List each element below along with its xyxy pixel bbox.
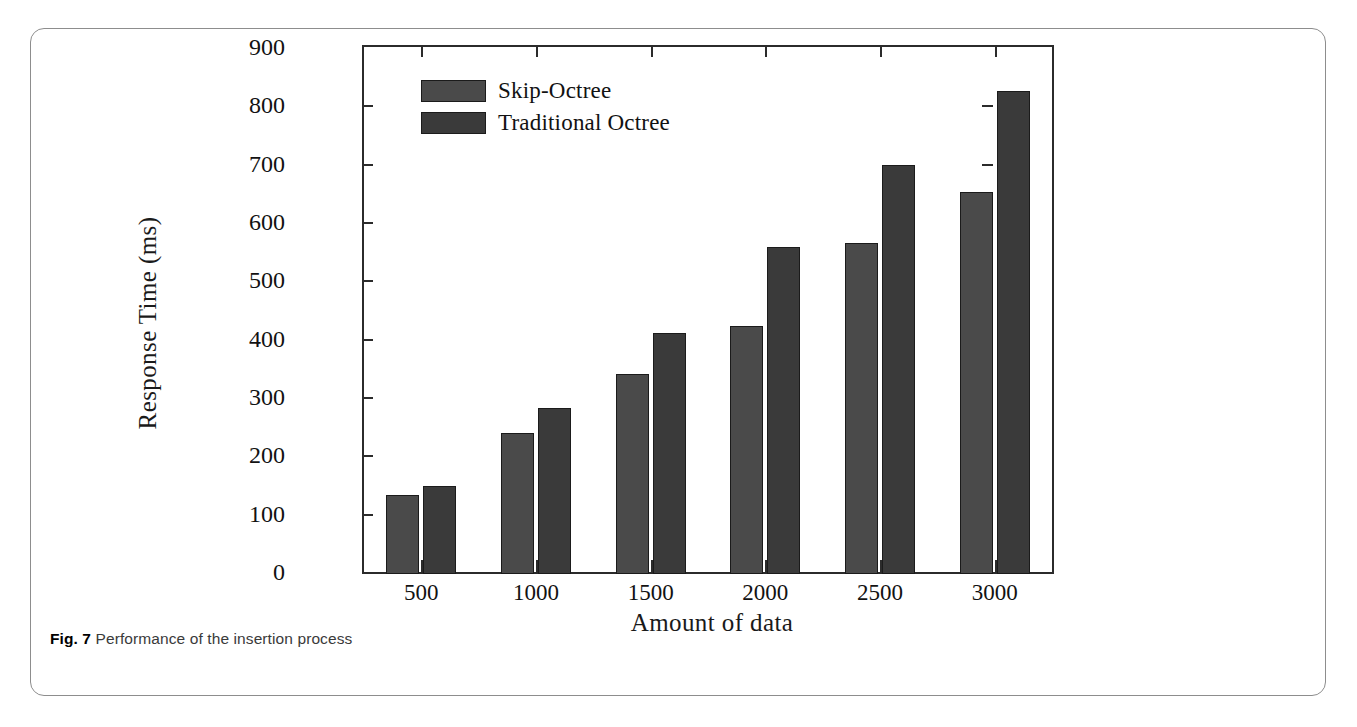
legend-swatch-traditional-octree	[421, 112, 486, 134]
y-tick-label: 400	[205, 327, 285, 351]
y-axis-title: Response Time (ms)	[134, 158, 162, 488]
y-tick-label: 100	[205, 502, 285, 526]
bar-skip-octree-3000	[960, 192, 993, 574]
bar-traditional-octree-2000	[767, 247, 800, 574]
bar-skip-octree-2000	[730, 326, 763, 575]
y-tick-label: 500	[205, 268, 285, 292]
y-tick-label: 300	[205, 385, 285, 409]
bar-skip-octree-2500	[845, 243, 878, 574]
figure-caption-label: Fig. 7	[50, 630, 91, 647]
y-tick-label: 200	[205, 443, 285, 467]
y-tick-label: 800	[205, 93, 285, 117]
x-tick-label: 1500	[586, 580, 716, 606]
x-tick-label: 2000	[700, 580, 830, 606]
bar-skip-octree-1000	[501, 433, 534, 574]
y-tick-label: 600	[205, 210, 285, 234]
figure-caption-body: Performance of the insertion process	[96, 630, 353, 647]
bar-traditional-octree-3000	[997, 91, 1030, 574]
legend-label-skip-octree: Skip-Octree	[498, 78, 611, 104]
chart-plot-area: Response Time (ms) Amount of data 010020…	[31, 29, 1325, 621]
legend-label-traditional-octree: Traditional Octree	[498, 110, 670, 136]
y-tick-label: 700	[205, 152, 285, 176]
bar-traditional-octree-1500	[653, 333, 686, 574]
x-tick-label: 2500	[815, 580, 945, 606]
y-tick-label: 0	[205, 560, 285, 584]
chart-legend: Skip-Octree Traditional Octree	[421, 76, 721, 140]
bar-skip-octree-500	[386, 495, 419, 574]
x-axis-title: Amount of data	[362, 609, 1062, 637]
x-tick-label: 3000	[930, 580, 1060, 606]
bar-traditional-octree-500	[423, 486, 456, 574]
bar-skip-octree-1500	[616, 374, 649, 574]
legend-item-traditional-octree: Traditional Octree	[421, 108, 721, 138]
bar-traditional-octree-2500	[882, 165, 915, 575]
x-tick-label: 1000	[471, 580, 601, 606]
legend-item-skip-octree: Skip-Octree	[421, 76, 721, 106]
figure-caption: Fig. 7 Performance of the insertion proc…	[50, 630, 352, 648]
y-tick-label: 900	[205, 35, 285, 59]
legend-swatch-skip-octree	[421, 80, 486, 102]
bar-traditional-octree-1000	[538, 408, 571, 574]
x-tick-label: 500	[356, 580, 486, 606]
figure-card: Response Time (ms) Amount of data 010020…	[30, 28, 1326, 696]
